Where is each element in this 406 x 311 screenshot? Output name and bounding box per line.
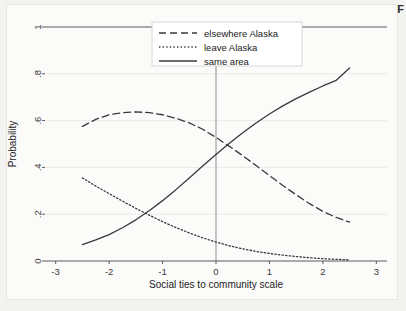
legend-label: same area (204, 56, 250, 67)
x-tick-label: -3 (51, 266, 59, 277)
chart-legend: elsewhere Alaskaleave Alaskasame area (152, 22, 302, 67)
y-axis-ticks-group: 0.2.4.6.81 (32, 24, 45, 263)
x-axis-label: Social ties to community scale (149, 279, 283, 290)
y-tick-label: 1 (32, 24, 43, 29)
y-tick-label: .4 (32, 163, 43, 171)
x-tick-label: 0 (213, 266, 218, 277)
figure-container: F 0.2.4.6.81 -3-2-10123 elsewhere Alaska… (0, 0, 406, 311)
y-tick-label: .8 (32, 70, 43, 78)
x-tick-label: 1 (267, 266, 272, 277)
legend-label: elsewhere Alaska (204, 28, 279, 39)
x-tick-label: 3 (374, 266, 379, 277)
y-tick-label: .2 (32, 210, 43, 218)
probability-line-chart: 0.2.4.6.81 -3-2-10123 elsewhere Alaskale… (0, 0, 406, 311)
x-tick-label: -1 (158, 266, 166, 277)
x-tick-label: 2 (320, 266, 325, 277)
x-tick-label: -2 (105, 266, 113, 277)
y-tick-label: 0 (32, 258, 43, 263)
x-axis-ticks-group: -3-2-10123 (51, 261, 379, 277)
y-tick-label: .6 (32, 117, 43, 125)
y-axis-label: Probability (7, 121, 18, 168)
legend-label: leave Alaska (204, 42, 258, 53)
